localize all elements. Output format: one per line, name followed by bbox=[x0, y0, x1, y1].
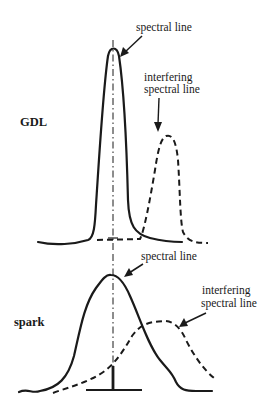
gdl-interfering-arrowhead bbox=[154, 122, 162, 132]
gdl-spectral-line-arrowhead bbox=[120, 47, 129, 57]
spark-spectral-line-arrow bbox=[129, 264, 143, 273]
gdl-panel: GDL spectral line interfering spectral l… bbox=[20, 21, 208, 252]
spark-label: spark bbox=[14, 315, 45, 329]
spark-interfering-label-line1: interfering bbox=[202, 284, 251, 297]
spark-spectral-line-arrowhead bbox=[124, 268, 133, 277]
gdl-spectral-line-arrow bbox=[124, 36, 142, 53]
gdl-spectral-line-label: spectral line bbox=[136, 21, 192, 34]
spark-interfering-line-peak bbox=[53, 321, 214, 393]
spark-panel: spark spectral line interfering spectral… bbox=[14, 250, 257, 393]
spark-interfering-arrow bbox=[185, 313, 206, 323]
spark-interfering-label-line2: spectral line bbox=[201, 297, 257, 310]
gdl-label: GDL bbox=[20, 115, 47, 129]
gdl-interfering-label-line2: spectral line bbox=[144, 83, 200, 96]
spectral-line-comparison-diagram: GDL spectral line interfering spectral l… bbox=[0, 0, 268, 411]
spark-spectral-line-label: spectral line bbox=[141, 250, 197, 263]
gdl-interfering-arrow bbox=[158, 98, 159, 124]
gdl-interfering-line-peak bbox=[97, 136, 208, 243]
